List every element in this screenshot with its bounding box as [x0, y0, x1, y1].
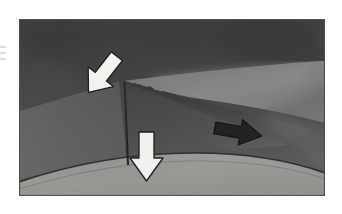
crop-mark	[0, 46, 6, 48]
crop-mark	[0, 52, 6, 54]
cropped-text-marks	[0, 46, 7, 68]
figure-frame	[19, 19, 325, 196]
figure-illustration	[19, 19, 325, 196]
page-canvas	[0, 0, 342, 214]
crop-mark	[0, 58, 6, 60]
vignette-b	[19, 19, 325, 196]
